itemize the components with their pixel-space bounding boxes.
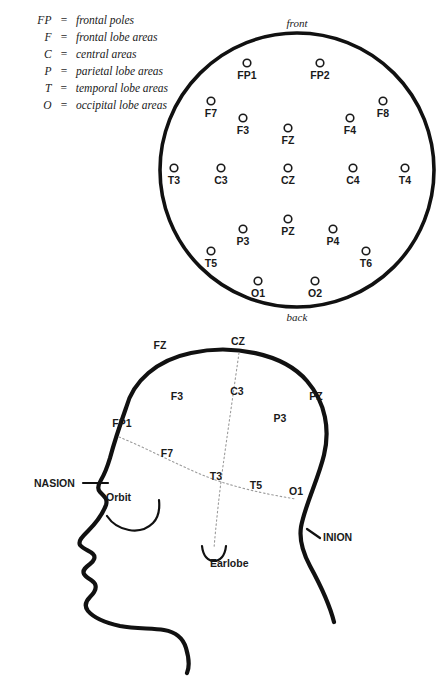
electrode-fp2: FP2 [310, 59, 329, 81]
back-orientation-label: back [287, 311, 309, 323]
electrode-label: FP1 [237, 69, 256, 81]
electrode-f8: F8 [377, 97, 389, 119]
electrode-label: P4 [327, 235, 340, 247]
top-view-diagram: front FP1FP2F7F8F3F4FZT3C3CZC4T4PZP3P4T5… [160, 17, 434, 323]
side-electrode-label-f7: F7 [161, 447, 173, 459]
electrode-p4: P4 [327, 225, 340, 247]
front-orientation-label: front [287, 17, 309, 29]
electrode-f4: F4 [344, 114, 356, 136]
electrode-label: FP2 [310, 69, 329, 81]
electrode-marker [316, 59, 324, 67]
electrode-t3: T3 [168, 164, 180, 186]
side-electrode-label-o1: O1 [289, 485, 303, 497]
electrode-marker [284, 215, 292, 223]
electrode-marker [217, 164, 225, 172]
side-electrode-label-t5: T5 [250, 479, 262, 491]
electrode-label: FZ [282, 134, 295, 146]
electrode-label: F7 [205, 107, 217, 119]
anatomical-label-earlobe: Earlobe [210, 557, 249, 569]
electrode-t4: T4 [399, 164, 411, 186]
electrode-label: T3 [168, 174, 180, 186]
electrode-cz: CZ [281, 164, 296, 186]
scalp-circle-outline [160, 33, 434, 307]
orbit-arc [107, 500, 159, 530]
electrode-label: O2 [308, 287, 322, 299]
side-electrode-label-cz: CZ [231, 335, 246, 347]
electrode-marker [239, 114, 247, 122]
eeg-electrode-placement-figure: FP = frontal poles F = frontal lobe area… [0, 0, 444, 680]
electrode-marker [170, 164, 178, 172]
electrode-label: CZ [281, 174, 296, 186]
electrode-t5: T5 [205, 247, 217, 269]
electrode-label: T6 [360, 257, 372, 269]
diagrams-layer: front FP1FP2F7F8F3F4FZT3C3CZC4T4PZP3P4T5… [0, 0, 444, 680]
electrode-label: C4 [346, 174, 360, 186]
electrode-c4: C4 [346, 164, 360, 186]
electrode-marker [362, 247, 370, 255]
side-electrode-label-fz: FZ [154, 339, 167, 351]
electrode-marker [329, 225, 337, 233]
dotted-line-cz-to-earlobe [214, 353, 239, 548]
side-electrode-label-group: FZCZF3C3PZP3FP1F7T3T5O1 [112, 335, 323, 497]
electrode-label: O1 [251, 287, 265, 299]
electrode-marker [379, 97, 387, 105]
anatomical-label-inion: INION [323, 531, 352, 543]
electrode-label: F4 [344, 124, 356, 136]
electrode-fz: FZ [282, 124, 295, 146]
electrode-marker [239, 225, 247, 233]
head-profile-outline [79, 350, 334, 673]
electrode-marker [284, 124, 292, 132]
electrode-label: P3 [237, 235, 250, 247]
electrode-o2: O2 [308, 277, 322, 299]
electrode-label: F8 [377, 107, 389, 119]
electrode-label: PZ [281, 225, 295, 237]
side-electrode-label-pz: PZ [309, 390, 323, 402]
electrode-marker [207, 247, 215, 255]
electrode-fp1: FP1 [237, 59, 256, 81]
electrode-label: C3 [214, 174, 228, 186]
electrode-c3: C3 [214, 164, 228, 186]
electrode-marker [207, 97, 215, 105]
electrode-label: T4 [399, 174, 411, 186]
electrode-marker [311, 277, 319, 285]
side-electrode-label-t3: T3 [210, 470, 222, 482]
side-electrode-label-p3: P3 [274, 412, 287, 424]
electrode-t6: T6 [360, 247, 372, 269]
side-electrode-label-f3: F3 [171, 390, 183, 402]
electrode-marker [254, 277, 262, 285]
anatomical-label-orbit: Orbit [106, 491, 132, 503]
side-electrode-label-c3: C3 [230, 385, 244, 397]
electrode-p3: P3 [237, 225, 250, 247]
electrode-o1: O1 [251, 277, 265, 299]
electrode-marker [401, 164, 409, 172]
anatomical-label-nasion: NASION [34, 477, 75, 489]
electrode-marker [346, 114, 354, 122]
electrode-label: F3 [237, 124, 249, 136]
electrode-label: T5 [205, 257, 217, 269]
electrode-f7: F7 [205, 97, 217, 119]
electrode-pz: PZ [281, 215, 295, 237]
inion-leader-line [307, 529, 320, 538]
electrode-marker [284, 164, 292, 172]
electrode-marker [349, 164, 357, 172]
electrode-f3: F3 [237, 114, 249, 136]
side-view-diagram: FZCZF3C3PZP3FP1F7T3T5O1 NASIONINIONOrbit… [34, 335, 352, 673]
dotted-line-fp1-to-o1 [119, 437, 296, 499]
top-electrode-group: FP1FP2F7F8F3F4FZT3C3CZC4T4PZP3P4T5T6O1O2 [168, 59, 411, 299]
side-electrode-label-fp1: FP1 [112, 417, 131, 429]
electrode-marker [243, 59, 251, 67]
